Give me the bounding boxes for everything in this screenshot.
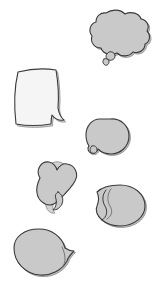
oval-speech-bubble — [96, 185, 146, 227]
rectangular-speech-bubble — [15, 69, 66, 127]
bubble-shapes-illustration — [0, 0, 155, 297]
round-small-tail-knob — [90, 146, 97, 154]
round-speech-bubble-small — [86, 119, 130, 155]
circle-speech-body — [14, 229, 74, 275]
drawing-canvas: Thought cloud bubble Rectangular speech … — [0, 0, 155, 297]
rect-speech-body — [15, 69, 64, 126]
heart-speech-bubble — [37, 162, 77, 213]
oval-speech-body — [96, 185, 145, 226]
thought-trail-bubble-small — [103, 59, 109, 66]
circular-speech-bubble — [14, 229, 76, 277]
thought-cloud-bubble — [90, 10, 151, 65]
